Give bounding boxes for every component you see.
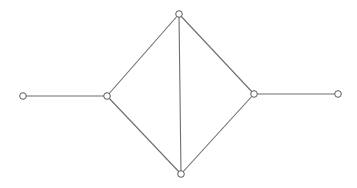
edge-n4-n5 <box>181 94 254 174</box>
edge-n3-n4 <box>179 14 181 174</box>
node-n3 <box>176 11 183 18</box>
edge-n2-n3 <box>107 14 179 96</box>
edge-n2-n4 <box>107 96 181 174</box>
node-n1 <box>20 93 27 100</box>
node-n6 <box>335 91 342 98</box>
graph-diagram <box>0 0 357 188</box>
node-n2 <box>104 93 111 100</box>
edge-n3-n5 <box>179 14 254 94</box>
node-n5 <box>251 91 258 98</box>
edges-group <box>23 14 338 174</box>
node-n4 <box>178 171 185 178</box>
